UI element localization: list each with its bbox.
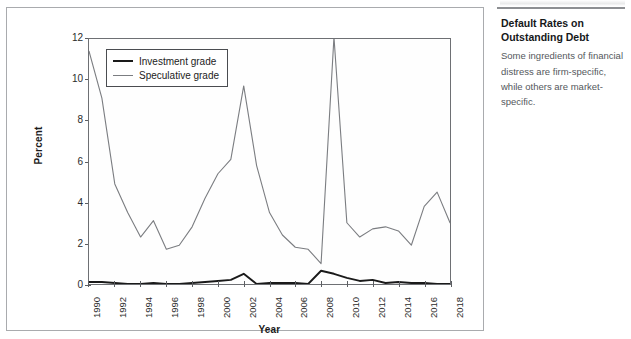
x-tick-mark	[192, 281, 193, 287]
x-tick-mark	[347, 281, 348, 287]
x-tick-label-2004: 2004	[274, 297, 284, 318]
x-tick-label-2014: 2014	[403, 297, 413, 318]
y-tick-label-10: 10	[72, 74, 83, 84]
y-tick-label-4: 4	[77, 198, 83, 208]
x-tick-mark	[270, 281, 271, 287]
x-tick-label-1996: 1996	[170, 297, 180, 318]
figure-header-cutoff	[500, 0, 625, 6]
x-tick-mark	[114, 281, 115, 287]
chart-legend: Investment grade Speculative grade	[106, 49, 228, 87]
x-tick-label-2006: 2006	[299, 297, 309, 318]
x-tick-label-2000: 2000	[222, 297, 232, 318]
legend-label-investment-grade: Investment grade	[139, 56, 216, 67]
y-tick-label-0: 0	[77, 280, 83, 290]
legend-item-investment-grade: Investment grade	[113, 54, 219, 68]
x-tick-label-2012: 2012	[377, 297, 387, 318]
x-tick-mark	[425, 281, 426, 287]
x-tick-mark	[88, 281, 89, 287]
x-tick-mark	[140, 281, 141, 287]
x-tick-mark	[373, 281, 374, 287]
x-tick-label-2002: 2002	[248, 297, 258, 318]
x-tick-mark	[399, 281, 400, 287]
x-tick-mark	[451, 281, 452, 287]
legend-label-speculative-grade: Speculative grade	[139, 70, 219, 81]
x-tick-mark	[166, 281, 167, 287]
x-tick-label-2010: 2010	[351, 297, 361, 318]
x-tick-label-1994: 1994	[144, 297, 154, 318]
x-tick-label-2018: 2018	[455, 297, 465, 318]
figure-page: 024681012 Percent Investment grade Specu…	[0, 0, 631, 339]
x-tick-label-1990: 1990	[92, 297, 102, 318]
figure-header-rule	[497, 7, 625, 9]
x-tick-mark	[321, 281, 322, 287]
x-tick-label-1992: 1992	[118, 297, 128, 318]
caption-column: Default Rates on Outstanding Debt Some i…	[501, 16, 625, 110]
y-axis-title: Percent	[33, 101, 44, 191]
x-tick-mark	[244, 281, 245, 287]
y-tick-label-2: 2	[77, 239, 83, 249]
y-tick-label-6: 6	[77, 157, 83, 167]
x-tick-label-1998: 1998	[196, 297, 206, 318]
y-tick-label-12: 12	[72, 33, 83, 43]
x-axis-title: Year	[88, 324, 451, 335]
x-tick-mark	[218, 281, 219, 287]
legend-line-icon-investment-grade	[113, 60, 133, 62]
figure-panel: 024681012 Percent Investment grade Specu…	[6, 7, 484, 331]
x-tick-mark	[295, 281, 296, 287]
caption-title: Default Rates on Outstanding Debt	[501, 16, 625, 44]
y-axis-ticks: 024681012	[55, 38, 83, 285]
x-tick-label-2016: 2016	[429, 297, 439, 318]
x-tick-label-2008: 2008	[325, 297, 335, 318]
caption-body: Some ingredients of financial distress a…	[501, 48, 625, 110]
x-axis-ticks: 1990199219941996199820002002200420062008…	[88, 287, 451, 325]
y-tick-label-8: 8	[77, 115, 83, 125]
legend-item-speculative-grade: Speculative grade	[113, 68, 219, 82]
legend-line-icon-speculative-grade	[113, 75, 133, 76]
